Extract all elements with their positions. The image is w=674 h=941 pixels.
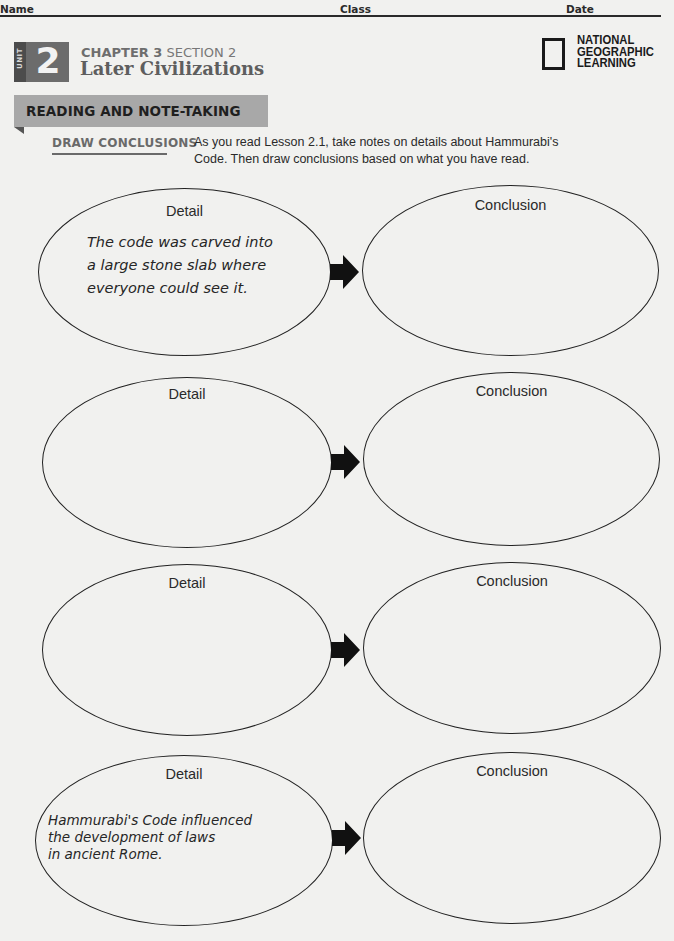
conclusion-oval-4[interactable]: Conclusion: [363, 752, 661, 924]
skill-underline: [52, 153, 167, 155]
conclusion-oval-3[interactable]: Conclusion: [363, 562, 661, 734]
name-label: Name: [0, 3, 34, 15]
banner-fold: [14, 127, 24, 134]
arrow-right-icon: [331, 633, 361, 667]
publisher-line-3: LEARNING: [577, 58, 654, 70]
skill-label: DRAW CONCLUSIONS: [52, 136, 197, 150]
class-label: Class: [340, 3, 371, 15]
page-title: Later Civilizations: [80, 58, 264, 79]
publisher-logo-text: NATIONAL GEOGRAPHIC LEARNING: [577, 35, 654, 70]
detail-title: Detail: [39, 203, 330, 219]
detail-title: Detail: [36, 766, 332, 782]
arrow-right-icon: [331, 445, 361, 479]
detail-oval-1[interactable]: Detail The code was carved into a large …: [38, 188, 331, 356]
detail-title: Detail: [43, 575, 331, 591]
arrow-right-icon: [330, 255, 360, 289]
yellow-border-logo-icon: [542, 38, 565, 70]
conclusion-oval-1[interactable]: Conclusion: [362, 185, 659, 356]
detail-oval-3[interactable]: Detail: [42, 564, 332, 736]
date-label: Date: [566, 3, 594, 15]
conclusion-title: Conclusion: [363, 197, 658, 213]
conclusion-title: Conclusion: [364, 573, 660, 589]
detail-title: Detail: [43, 386, 331, 402]
detail-oval-2[interactable]: Detail: [42, 377, 332, 548]
banner-label: READING AND NOTE-TAKING: [26, 103, 241, 119]
detail-note: The code was carved into a large stone s…: [87, 231, 273, 300]
conclusion-title: Conclusion: [364, 763, 660, 779]
arrow-right-icon: [332, 821, 362, 855]
detail-note: Hammurabi's Code influenced the developm…: [48, 812, 252, 863]
instructions: As you read Lesson 2.1, take notes on de…: [194, 134, 574, 168]
header-rule: [0, 15, 661, 17]
detail-oval-4[interactable]: Detail Hammurabi's Code influenced the d…: [35, 755, 333, 926]
unit-word: UNIT: [16, 51, 24, 69]
conclusion-oval-2[interactable]: Conclusion: [363, 372, 660, 546]
conclusion-title: Conclusion: [364, 383, 659, 399]
unit-number: 2: [30, 36, 66, 86]
